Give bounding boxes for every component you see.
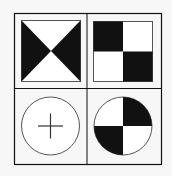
cell-top-left-hourglass-icon (22, 21, 81, 82)
cell-bottom-left-crosshair-icon (22, 97, 80, 155)
cell-bottom-right-quadrant-circle-icon (94, 97, 152, 155)
cell-top-right-checkerboard-icon (94, 22, 153, 82)
symbol-grid-diagram (0, 0, 172, 176)
